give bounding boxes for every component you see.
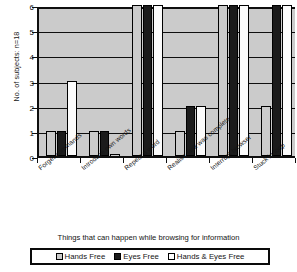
- bar: [143, 5, 153, 156]
- bar-group: [39, 7, 82, 156]
- bar-group: [168, 7, 211, 156]
- legend-swatch-icon: [168, 253, 175, 260]
- x-tick-mark: [80, 158, 81, 163]
- bar: [218, 5, 228, 156]
- x-tick-mark: [37, 158, 38, 163]
- legend-swatch-icon: [114, 253, 121, 260]
- bar: [132, 5, 142, 156]
- y-tick-label: 0: [12, 154, 34, 163]
- bar: [46, 131, 56, 156]
- x-tick-mark: [166, 158, 167, 163]
- bar: [89, 131, 99, 156]
- bar-group: [254, 7, 297, 156]
- bar: [110, 154, 120, 156]
- bar: [57, 131, 67, 156]
- chart-legend: Hands FreeEyes FreeHands & Eyes Free: [30, 248, 270, 265]
- x-tick-mark: [295, 158, 296, 163]
- bar-chart-figure: No. of subjects: n=18 0123456 Forget com…: [0, 0, 297, 272]
- bar-group: [211, 7, 254, 156]
- bar: [229, 5, 239, 156]
- bar: [282, 5, 292, 156]
- bar: [239, 5, 249, 156]
- y-tick-label: 3: [12, 78, 34, 87]
- bar-group: [125, 7, 168, 156]
- legend-swatch-icon: [56, 253, 63, 260]
- y-tick-label: 4: [12, 53, 34, 62]
- plot-area: [37, 7, 295, 158]
- y-tick-label: 6: [12, 3, 34, 12]
- bar: [67, 81, 77, 157]
- bar: [272, 5, 282, 156]
- x-axis-title: Things that can happen while browsing fo…: [0, 233, 297, 242]
- bar-series-container: [39, 7, 295, 156]
- x-tick-mark: [252, 158, 253, 163]
- bar: [186, 106, 196, 156]
- y-tick-label: 5: [12, 28, 34, 37]
- bar: [100, 131, 110, 156]
- legend-item[interactable]: Eyes Free: [114, 252, 159, 261]
- bar: [175, 131, 185, 156]
- x-tick-mark: [209, 158, 210, 163]
- bar: [153, 5, 163, 156]
- x-tick-mark: [123, 158, 124, 163]
- legend-label: Hands & Eyes Free: [177, 252, 245, 261]
- legend-item[interactable]: Hands Free: [56, 252, 106, 261]
- legend-item[interactable]: Hands & Eyes Free: [168, 252, 245, 261]
- bar: [196, 106, 206, 156]
- y-tick-label: 2: [12, 103, 34, 112]
- y-tick-label: 1: [12, 128, 34, 137]
- bar: [261, 106, 271, 156]
- legend-label: Eyes Free: [123, 252, 159, 261]
- bar-group: [82, 7, 125, 156]
- legend-label: Hands Free: [65, 252, 106, 261]
